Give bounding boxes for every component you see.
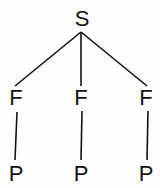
edge-f1-p1 — [15, 112, 17, 160]
edge-s-f1 — [15, 32, 81, 86]
node-f1: F — [9, 87, 22, 109]
node-p1: P — [9, 163, 24, 185]
node-p2: P — [74, 163, 89, 185]
edge-f2-p2 — [81, 111, 82, 160]
edge-s-f3 — [81, 32, 147, 86]
node-f3: F — [139, 87, 152, 109]
node-f2: F — [74, 87, 87, 109]
node-root: S — [75, 8, 90, 30]
tree-diagram: S F F F P P P — [0, 0, 160, 188]
node-p3: P — [139, 163, 154, 185]
edge-f3-p3 — [147, 111, 148, 160]
